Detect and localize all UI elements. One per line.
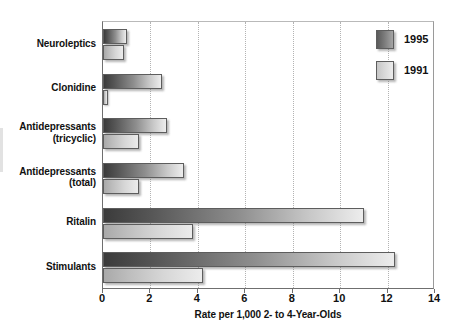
y-axis-label-antidepressants-tricyclic: Antidepressants(tricyclic)	[0, 121, 98, 144]
y-axis-label-stimulants: Stimulants	[0, 261, 98, 273]
x-tick-label-12: 12	[372, 292, 402, 304]
y-axis-label-line: (tricyclic)	[0, 133, 96, 145]
bar-1991-stimulants	[103, 268, 203, 283]
gridline-6	[245, 22, 246, 288]
y-axis-label-line: Antidepressants	[0, 121, 96, 133]
bar-1991-ritalin	[103, 224, 193, 239]
y-axis-label-ritalin: Ritalin	[0, 216, 98, 228]
y-axis-label-line: (total)	[0, 177, 96, 189]
bar-1991-antidepressants-tricyclic	[103, 134, 139, 149]
bar-1995-stimulants	[103, 252, 395, 267]
bar-1995-neuroleptics	[103, 29, 127, 44]
legend-swatch-1995-icon	[376, 30, 394, 49]
gridline-2	[150, 22, 151, 288]
y-axis-label-line: Neuroleptics	[0, 38, 96, 50]
y-axis-label-neuroleptics: Neuroleptics	[0, 38, 98, 50]
bar-1995-clonidine	[103, 74, 162, 89]
y-axis-label-line: Ritalin	[0, 216, 96, 228]
bar-chart: NeurolepticsClonidineAntidepressants(tri…	[0, 0, 459, 330]
legend-swatch-1991-icon	[376, 61, 394, 80]
x-tick-label-0: 0	[87, 292, 117, 304]
x-tick-label-2: 2	[134, 292, 164, 304]
bar-1995-ritalin	[103, 208, 364, 223]
bar-1991-clonidine	[103, 90, 108, 105]
legend-label-1995: 1995	[404, 33, 428, 45]
bar-1995-antidepressants-tricyclic	[103, 118, 167, 133]
y-axis-label-antidepressants-total: Antidepressants(total)	[0, 166, 98, 189]
gridline-8	[293, 22, 294, 288]
bar-1991-neuroleptics	[103, 45, 124, 60]
y-axis-label-line: Antidepressants	[0, 166, 96, 178]
y-axis-label-line: Clonidine	[0, 82, 96, 94]
bar-1991-antidepressants-total	[103, 179, 139, 194]
x-axis-title: Rate per 1,000 2- to 4-Year-Olds	[102, 309, 434, 320]
x-tick-label-4: 4	[182, 292, 212, 304]
y-axis-label-line: Stimulants	[0, 261, 96, 273]
x-tick-label-14: 14	[419, 292, 449, 304]
y-axis-label-clonidine: Clonidine	[0, 82, 98, 94]
bar-1995-antidepressants-total	[103, 163, 184, 178]
gridline-10	[340, 22, 341, 288]
gridline-4	[198, 22, 199, 288]
x-tick-label-8: 8	[277, 292, 307, 304]
x-tick-label-6: 6	[229, 292, 259, 304]
legend-label-1991: 1991	[404, 64, 428, 76]
x-tick-label-10: 10	[324, 292, 354, 304]
